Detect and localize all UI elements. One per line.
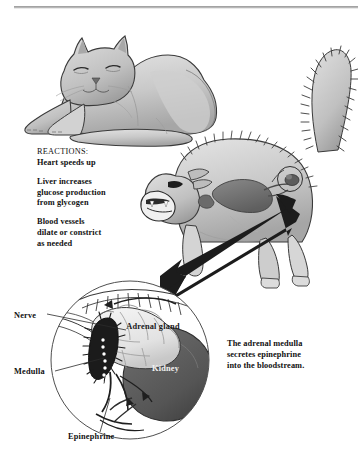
label-nerve: Nerve — [14, 311, 36, 320]
adrenal-detail-inset — [47, 281, 214, 439]
reaction-item-2-line-2: glucose production — [37, 188, 157, 199]
reaction-item-2-line-1: Liver increases — [37, 177, 157, 188]
reaction-item-1: Heart speeds up — [37, 158, 157, 169]
adrenal-location-circle — [278, 167, 303, 192]
reactions-heading: REACTIONS: — [37, 147, 157, 158]
reaction-item-3: Blood vessels dilate or constrict as nee… — [37, 217, 157, 249]
illustration-page: REACTIONS: Heart speeds up Liver increas… — [0, 0, 358, 452]
label-epinephrine: Epinephrine — [68, 432, 114, 441]
reactions-text-block: REACTIONS: Heart speeds up Liver increas… — [37, 147, 157, 249]
caption-line-1: The adrenal medulla — [227, 339, 347, 350]
detail-pointer-arrow — [160, 194, 300, 301]
label-medulla: Medulla — [14, 367, 45, 376]
reaction-item-2-line-3: from glycogen — [37, 198, 157, 209]
adrenal-medulla-caption: The adrenal medulla secretes epinephrine… — [227, 339, 347, 371]
reaction-item-3-line-2: dilate or constrict — [37, 228, 157, 239]
bristled-tail — [301, 46, 358, 152]
epinephrine-granules — [94, 338, 106, 411]
reaction-item-3-line-3: as needed — [37, 239, 157, 250]
label-adrenal-gland: Adrenal gland — [126, 322, 180, 333]
reaction-item-3-line-1: Blood vessels — [37, 217, 157, 228]
aroused-cat-figure — [141, 46, 358, 288]
caption-line-2: secretes epinephrine — [227, 350, 347, 361]
label-kidney: Kidney — [152, 364, 179, 373]
resting-cat-figure — [25, 36, 217, 146]
reaction-item-2: Liver increases glucose production from … — [37, 177, 157, 209]
label-leader-lines — [47, 314, 126, 432]
caption-line-3: into the bloodstream. — [227, 361, 347, 372]
top-rule — [14, 6, 358, 8]
